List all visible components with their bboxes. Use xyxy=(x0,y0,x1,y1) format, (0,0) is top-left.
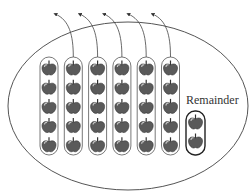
apple-group xyxy=(64,57,82,155)
remainder-label: Remainder xyxy=(186,93,239,107)
arrow-icon xyxy=(153,14,171,57)
apple-icon xyxy=(42,99,56,114)
apple-icon xyxy=(164,118,178,133)
apple-icon xyxy=(91,61,105,76)
apple-icon xyxy=(91,80,105,95)
apple-icon xyxy=(42,137,56,152)
apple-group xyxy=(40,57,58,155)
apple-group xyxy=(162,57,180,155)
apple-icon xyxy=(66,99,80,114)
arrow-icon xyxy=(55,14,73,57)
removal-arrows xyxy=(55,14,170,57)
apple-icon xyxy=(42,61,56,76)
apple-icon xyxy=(139,80,153,95)
apple-icon xyxy=(115,80,129,95)
apple-icon xyxy=(139,99,153,114)
apple-icon xyxy=(66,61,80,76)
apple-icon xyxy=(115,61,129,76)
apple-group xyxy=(113,57,131,155)
apple-groups xyxy=(40,57,180,155)
apple-icon xyxy=(42,80,56,95)
apple-icon xyxy=(164,80,178,95)
apple-icon xyxy=(139,61,153,76)
apple-group xyxy=(89,57,107,155)
apple-icon xyxy=(164,99,178,114)
division-remainder-diagram: Remainder xyxy=(0,0,249,194)
apple-icon xyxy=(115,99,129,114)
apple-icon xyxy=(189,134,203,149)
apple-icon xyxy=(91,99,105,114)
arrow-icon xyxy=(128,14,146,57)
apple-icon xyxy=(66,137,80,152)
apple-icon xyxy=(115,118,129,133)
arrow-icon xyxy=(80,14,98,57)
apple-icon xyxy=(42,118,56,133)
apple-icon xyxy=(91,137,105,152)
apple-icon xyxy=(164,137,178,152)
apple-icon xyxy=(66,80,80,95)
apple-icon xyxy=(139,137,153,152)
apple-icon xyxy=(66,118,80,133)
arrow-icon xyxy=(104,14,122,57)
remainder-group xyxy=(186,111,205,155)
apple-icon xyxy=(189,115,203,130)
apple-icon xyxy=(115,137,129,152)
apple-icon xyxy=(139,118,153,133)
apple-group xyxy=(137,57,155,155)
apple-icon xyxy=(91,118,105,133)
apple-icon xyxy=(164,61,178,76)
